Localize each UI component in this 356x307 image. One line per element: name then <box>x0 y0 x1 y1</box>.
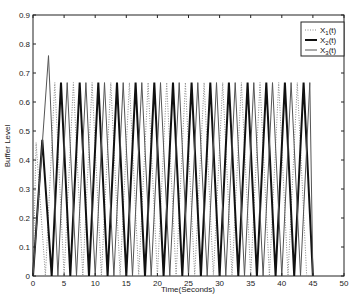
x-tick-label: 10 <box>91 279 100 288</box>
x-tick-label: 15 <box>122 279 131 288</box>
x-tick-label: 0 <box>31 279 36 288</box>
x-tick-label: 50 <box>340 279 349 288</box>
y-tick-label: 0.6 <box>19 98 31 107</box>
y-tick-label: 0.7 <box>19 69 31 78</box>
y-tick-label: 0 <box>26 272 31 281</box>
y-tick-label: 0.5 <box>19 127 31 136</box>
x-tick-label: 30 <box>215 279 224 288</box>
y-axis-label: Buffer Level <box>3 125 12 168</box>
x-tick-label: 35 <box>246 279 255 288</box>
legend-label-3: X3(t) <box>320 46 337 56</box>
buffer-level-chart: 0510152025303540455000.10.20.30.40.50.60… <box>0 0 356 307</box>
y-tick-label: 0.3 <box>19 185 31 194</box>
y-tick-label: 0.1 <box>19 243 31 252</box>
y-tick-label: 0.9 <box>19 11 31 20</box>
x-tick-label: 45 <box>308 279 317 288</box>
x-tick-label: 5 <box>62 279 67 288</box>
x-tick-label: 40 <box>277 279 286 288</box>
legend: X1(t)X2(t)X3(t) <box>301 22 344 56</box>
x-axis-label: Time(Seconds) <box>161 285 215 294</box>
y-tick-label: 0.2 <box>19 214 31 223</box>
legend-label-2: X2(t) <box>320 36 337 46</box>
y-tick-label: 0.4 <box>19 156 31 165</box>
y-tick-label: 0.8 <box>19 40 31 49</box>
legend-label-1: X1(t) <box>320 26 337 36</box>
